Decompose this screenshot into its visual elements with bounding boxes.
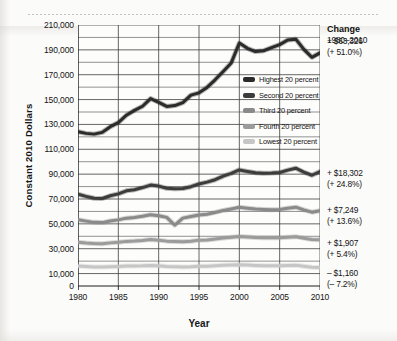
plot-area xyxy=(78,25,320,286)
y-tick-label: 150,000 xyxy=(44,95,74,105)
legend-label: Third 20 percent xyxy=(259,106,310,115)
y-tick-label: 50,000 xyxy=(49,219,74,229)
y-tick-label: 90,000 xyxy=(49,169,74,179)
y-tick-label: 190,000 xyxy=(44,45,74,55)
chart-canvas xyxy=(78,25,320,294)
change-amount: + $1,907 xyxy=(327,238,397,249)
legend-swatch-icon xyxy=(243,139,255,144)
y-axis-tick-labels: 010,00030,00050,00070,00090,000110,00013… xyxy=(8,0,74,341)
change-percent: (+ 5.4%) xyxy=(327,249,397,260)
change-annotation: – $1,160(– 7.2%) xyxy=(327,268,397,289)
change-annotation: + $63,326(+ 51.0%) xyxy=(327,36,397,57)
legend-swatch-icon xyxy=(243,124,255,129)
legend-swatch-icon xyxy=(243,108,255,113)
change-percent: (+ 13.6%) xyxy=(327,216,397,227)
y-tick-label: 70,000 xyxy=(49,194,74,204)
change-amount: + $7,249 xyxy=(327,205,397,216)
change-amount: + $18,302 xyxy=(327,168,397,179)
x-tick-label: 2000 xyxy=(230,292,249,302)
change-annotations: Change 1980–2010 + $63,326(+ 51.0%)+ $18… xyxy=(327,24,397,46)
legend-label: Lowest 20 percent xyxy=(259,137,317,146)
change-amount: – $1,160 xyxy=(327,268,397,279)
series-line xyxy=(78,265,320,268)
legend-item[interactable]: Lowest 20 percent xyxy=(243,134,335,150)
change-annotation: + $18,302(+ 24.8%) xyxy=(327,168,397,189)
change-percent: (+ 51.0%) xyxy=(327,47,397,58)
legend-label: Second 20 percent xyxy=(259,91,319,100)
x-tick-label: 1995 xyxy=(190,292,209,302)
y-tick-label: 130,000 xyxy=(44,119,74,129)
y-tick-label: 110,000 xyxy=(45,144,74,154)
legend-item[interactable]: Second 20 percent xyxy=(243,88,335,104)
chart-figure: Constant 2010 Dollars 010,00030,00050,00… xyxy=(0,0,397,341)
y-tick-label: 0 xyxy=(69,281,74,291)
x-tick-label: 2010 xyxy=(311,292,330,302)
x-tick-label: 1980 xyxy=(69,292,88,302)
change-percent: (– 7.2%) xyxy=(327,279,397,290)
change-annotation: + $1,907(+ 5.4%) xyxy=(327,238,397,259)
x-axis-title: Year xyxy=(78,318,320,329)
change-heading: Change xyxy=(327,24,397,35)
change-percent: (+ 24.8%) xyxy=(327,179,397,190)
y-tick-label: 170,000 xyxy=(44,70,74,80)
legend-label: Highest 20 percent xyxy=(259,75,318,84)
legend-label: Fourth 20 percent xyxy=(259,122,315,131)
legend-item[interactable]: Fourth 20 percent xyxy=(243,119,335,135)
y-tick-label: 10,000 xyxy=(49,269,74,279)
legend-item[interactable]: Highest 20 percent xyxy=(243,72,335,88)
legend-item[interactable]: Third 20 percent xyxy=(243,103,335,119)
change-amount: + $63,326 xyxy=(327,36,397,47)
legend-swatch-icon xyxy=(243,77,255,82)
change-annotation: + $7,249(+ 13.6%) xyxy=(327,205,397,226)
legend-swatch-icon xyxy=(243,93,255,98)
y-tick-label: 30,000 xyxy=(49,244,74,254)
x-tick-label: 1990 xyxy=(149,292,168,302)
scan-artifact-line xyxy=(28,14,380,15)
y-tick-label: 210,000 xyxy=(44,20,74,30)
chart-legend: Highest 20 percentSecond 20 percentThird… xyxy=(243,72,335,150)
x-tick-label: 1985 xyxy=(109,292,128,302)
x-tick-label: 2005 xyxy=(270,292,289,302)
